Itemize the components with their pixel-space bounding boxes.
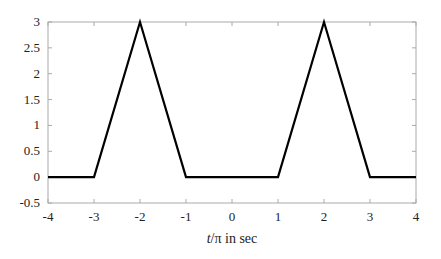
y-tick-label: 1.5 [24,92,40,107]
series-line [48,22,416,177]
x-tick-label: 1 [275,209,282,224]
y-tick-label: 3 [34,14,41,29]
y-tick-label: 2 [34,66,41,81]
x-axis-label-unit: /π in sec [211,231,258,246]
y-tick-label: -0.5 [19,195,40,210]
y-axis: -0.500.511.522.53 [19,14,416,210]
y-tick-label: 0 [34,169,41,184]
data-series [48,22,416,177]
y-tick-label: 0.5 [24,143,40,158]
x-tick-label: 0 [229,209,236,224]
x-tick-label: -3 [89,209,100,224]
x-tick-label: -1 [181,209,192,224]
x-tick-label: -4 [43,209,54,224]
y-tick-label: 1 [34,117,41,132]
x-tick-label: 2 [321,209,328,224]
x-axis: -4-3-2-101234 [43,22,420,224]
x-tick-label: -2 [135,209,146,224]
x-axis-label: t/π in sec [207,231,258,246]
chart: -0.500.511.522.53 -4-3-2-101234 t/π in s… [0,0,441,259]
y-tick-label: 2.5 [24,40,40,55]
x-tick-label: 4 [413,209,420,224]
plot-area [48,22,416,203]
x-tick-label: 3 [367,209,374,224]
plot-frame [48,22,416,203]
